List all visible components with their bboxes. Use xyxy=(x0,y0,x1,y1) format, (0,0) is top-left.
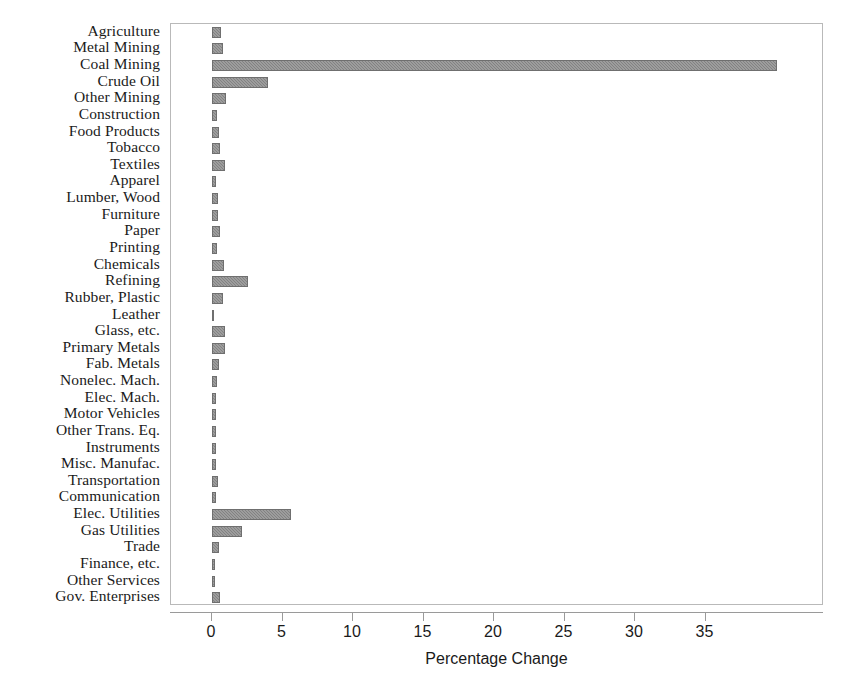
bar xyxy=(212,176,216,187)
x-axis-tick-label: 25 xyxy=(541,623,587,641)
category-label: Motor Vehicles xyxy=(0,405,160,420)
x-axis-tick-label: 35 xyxy=(682,623,728,641)
category-label: Coal Mining xyxy=(0,56,160,71)
bar xyxy=(212,276,248,287)
category-label: Other Mining xyxy=(0,89,160,104)
category-label: Nonelec. Mach. xyxy=(0,372,160,387)
plot-frame xyxy=(170,23,823,605)
x-axis-tick-label: 10 xyxy=(329,623,375,641)
category-label: Glass, etc. xyxy=(0,322,160,337)
x-axis-tick-label: 15 xyxy=(400,623,446,641)
category-label: Rubber, Plastic xyxy=(0,289,160,304)
x-axis-tick xyxy=(282,612,283,621)
category-label: Lumber, Wood xyxy=(0,189,160,204)
category-label: Paper xyxy=(0,222,160,237)
bar xyxy=(212,43,223,54)
bar xyxy=(212,542,219,553)
category-label: Gas Utilities xyxy=(0,522,160,537)
category-label: Communication xyxy=(0,488,160,503)
category-label: Furniture xyxy=(0,206,160,221)
category-label: Transportation xyxy=(0,472,160,487)
bar xyxy=(212,559,215,570)
category-label: Food Products xyxy=(0,123,160,138)
category-label: Printing xyxy=(0,239,160,254)
category-label: Misc. Manufac. xyxy=(0,455,160,470)
category-label: Gov. Enterprises xyxy=(0,588,160,603)
bar xyxy=(212,60,777,71)
x-axis-title: Percentage Change xyxy=(170,650,823,668)
bar xyxy=(212,127,219,138)
category-label: Leather xyxy=(0,306,160,321)
bar xyxy=(212,409,216,420)
x-axis-tick-label: 20 xyxy=(470,623,516,641)
bar xyxy=(212,260,224,271)
bar xyxy=(212,210,218,221)
category-label: Elec. Utilities xyxy=(0,505,160,520)
x-axis-tick-label: 0 xyxy=(188,623,234,641)
x-axis-tick xyxy=(493,612,494,621)
category-label: Instruments xyxy=(0,439,160,454)
category-label: Fab. Metals xyxy=(0,355,160,370)
category-label: Chemicals xyxy=(0,256,160,271)
category-label: Finance, etc. xyxy=(0,555,160,570)
bar xyxy=(212,77,268,88)
bar xyxy=(212,226,220,237)
bar xyxy=(212,193,218,204)
x-axis-tick-label: 5 xyxy=(259,623,305,641)
bar xyxy=(212,459,216,470)
bar xyxy=(212,443,216,454)
category-label: Primary Metals xyxy=(0,339,160,354)
category-label: Tobacco xyxy=(0,139,160,154)
category-label: Elec. Mach. xyxy=(0,389,160,404)
x-axis-line xyxy=(170,612,823,613)
x-axis-tick xyxy=(564,612,565,621)
bar xyxy=(212,376,217,387)
bar xyxy=(212,110,217,121)
category-label: Apparel xyxy=(0,172,160,187)
bar xyxy=(212,526,242,537)
category-label: Metal Mining xyxy=(0,39,160,54)
category-label: Other Trans. Eq. xyxy=(0,422,160,437)
plot-area xyxy=(171,24,822,604)
percentage-change-bar-chart: AgricultureMetal MiningCoal MiningCrude … xyxy=(0,0,846,690)
x-axis-tick xyxy=(705,612,706,621)
bar xyxy=(212,426,216,437)
bar xyxy=(212,393,216,404)
x-axis-tick xyxy=(634,612,635,621)
bar xyxy=(212,160,225,171)
bar xyxy=(212,359,219,370)
category-label: Construction xyxy=(0,106,160,121)
bar xyxy=(212,293,223,304)
bar xyxy=(212,243,217,254)
bar xyxy=(212,509,291,520)
bar xyxy=(212,310,214,321)
bar xyxy=(212,476,218,487)
category-label: Trade xyxy=(0,538,160,553)
bar xyxy=(212,93,226,104)
x-axis-tick-label: 30 xyxy=(611,623,657,641)
x-axis-tick xyxy=(423,612,424,621)
category-label: Crude Oil xyxy=(0,73,160,88)
bar xyxy=(212,143,220,154)
bar xyxy=(212,592,220,603)
bar xyxy=(212,576,215,587)
category-label: Agriculture xyxy=(0,23,160,38)
x-axis-tick xyxy=(352,612,353,621)
x-axis-tick xyxy=(211,612,212,621)
category-label: Refining xyxy=(0,272,160,287)
category-label: Other Services xyxy=(0,572,160,587)
category-axis-labels: AgricultureMetal MiningCoal MiningCrude … xyxy=(0,23,162,605)
bar xyxy=(212,326,225,337)
bar xyxy=(212,27,221,38)
category-label: Textiles xyxy=(0,156,160,171)
bar xyxy=(212,492,216,503)
bar xyxy=(212,343,225,354)
